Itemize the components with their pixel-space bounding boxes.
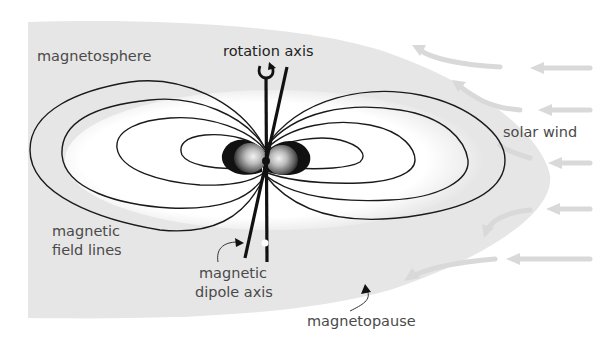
field-lines-label-line2: field lines	[52, 242, 122, 258]
field-lines-label-line1: magnetic	[52, 223, 120, 239]
magnetosphere-label: magnetosphere	[37, 48, 151, 64]
dipole-marker	[262, 240, 269, 247]
dipole-axis-label-line1: magnetic	[199, 265, 267, 281]
dipole-axis-label-line2: dipole axis	[195, 284, 273, 300]
magnetosphere-diagram: magnetosphere rotation axis solar wind m…	[0, 0, 605, 349]
rotation-axis-line	[266, 78, 267, 262]
solar-wind-label: solar wind	[503, 124, 577, 140]
rotation-axis-label: rotation axis	[223, 43, 314, 59]
magnetopause-label: magnetopause	[307, 313, 416, 329]
